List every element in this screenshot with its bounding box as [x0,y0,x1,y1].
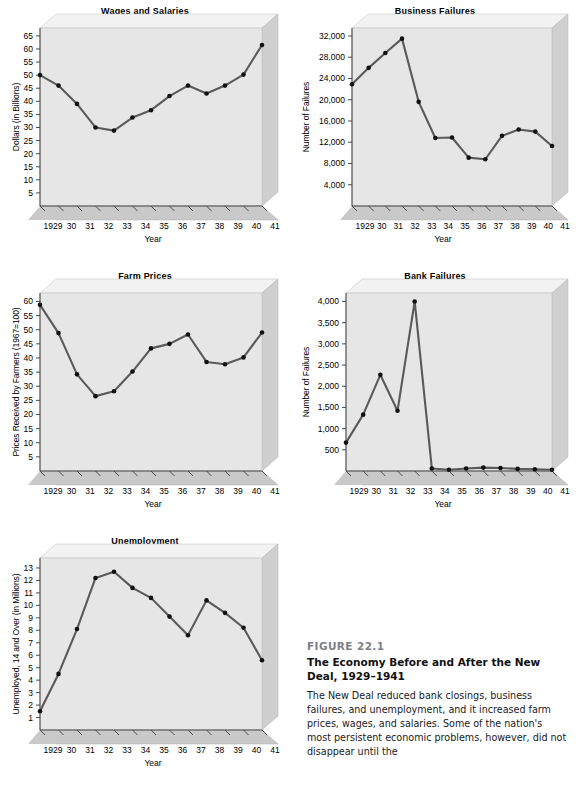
data-point-marker [533,467,538,472]
x-tick-label: 30 [67,486,76,496]
data-point-marker [383,51,388,56]
x-tick-label: 33 [423,486,432,496]
x-tick-label: 1929 [350,486,369,496]
data-point-marker [241,625,246,630]
x-tick-label: 41 [560,486,569,496]
x-tick-label: 36 [178,486,187,496]
y-tick-label: 20,000 [290,95,345,105]
x-tick-label: 30 [67,745,76,755]
plot-right-face [552,14,568,206]
data-point-marker [186,633,191,638]
data-point-marker [75,102,80,107]
chart-panel-wages-and-salaries: Wages and Salaries 510152025303540455055… [0,6,290,264]
x-tick-label: 41 [270,486,279,496]
data-point-marker [167,342,172,347]
data-point-marker [93,125,98,130]
figure-title: The Economy Before and After the New Dea… [307,656,569,684]
data-point-marker [260,330,265,335]
x-tick-label: 39 [233,745,242,755]
data-point-marker [361,412,366,417]
data-point-marker [223,611,228,616]
y-axis-label: Dollars (in Billions) [11,28,21,206]
data-point-marker [186,332,191,337]
x-tick-label: 32 [410,221,419,231]
data-point-marker [481,465,486,470]
plot-area-wrapper: 5101520253035404550556065192930313233343… [0,18,290,264]
x-tick-label: 31 [85,486,94,496]
plot-top-face [346,279,568,293]
x-tick-label: 1929 [44,221,63,231]
data-point-marker [112,389,117,394]
plot-right-face [262,544,278,730]
plot-base-face [40,471,278,485]
x-axis-label: Year [8,499,298,509]
data-point-marker [38,73,43,78]
figure-body-text: The New Deal reduced bank closings, busi… [307,689,569,759]
x-tick-label: 35 [159,745,168,755]
data-point-marker [378,372,383,377]
data-point-marker [223,83,228,88]
x-tick-label: 33 [122,221,131,231]
plot-right-face [552,279,568,471]
x-tick-label: 30 [67,221,76,231]
data-point-marker [433,136,438,141]
data-point-marker [516,127,521,132]
x-tick-label: 34 [141,221,150,231]
plot-top-face [40,279,278,293]
chart-panel-farm-prices: Farm Prices 5101520253035404550556019293… [0,271,290,529]
y-tick-label: 32,000 [290,31,345,41]
x-tick-label: 31 [85,221,94,231]
y-tick-label: 3,500 [290,318,339,328]
plot-base-face [346,471,568,485]
data-point-marker [430,466,435,471]
y-tick-label: 2,500 [290,360,339,370]
x-tick-label: 35 [457,486,466,496]
data-point-marker [412,299,417,304]
data-point-marker [483,157,488,162]
x-tick-label: 31 [394,221,403,231]
data-point-marker [416,100,421,105]
chart-panel-bank-failures: Bank Failures 5001,0001,5002,0002,5003,0… [290,271,580,529]
y-tick-label: 4,000 [290,296,339,306]
x-tick-label: 38 [509,486,518,496]
plot-top-face [40,544,278,558]
plot-background [40,28,262,206]
data-point-marker [38,709,43,714]
y-tick-label: 2,000 [290,381,339,391]
data-point-marker [112,128,117,133]
data-point-marker [130,369,135,374]
x-tick-label: 36 [477,221,486,231]
data-point-marker [93,394,98,399]
x-tick-label: 1929 [44,745,63,755]
data-point-marker [450,135,455,140]
x-tick-label: 31 [85,745,94,755]
y-tick-label: 3,000 [290,339,339,349]
x-tick-label: 40 [543,486,552,496]
y-tick-label: 8,000 [290,158,345,168]
y-tick-label: 1,000 [290,424,339,434]
x-tick-label: 35 [159,486,168,496]
x-tick-label: 40 [252,745,261,755]
x-tick-label: 36 [178,221,187,231]
x-tick-label: 34 [444,221,453,231]
plot-area-wrapper: 5001,0001,5002,0002,5003,0003,5004,00019… [290,283,580,529]
x-tick-label: 34 [141,486,150,496]
data-point-marker [241,355,246,360]
plot-background [40,558,262,730]
y-tick-label: 16,000 [290,116,345,126]
y-tick-label: 500 [290,445,339,455]
x-tick-label: 37 [196,486,205,496]
data-point-marker [204,360,209,365]
data-point-marker [241,72,246,77]
x-tick-label: 30 [371,486,380,496]
data-point-marker [204,598,209,603]
plot-area-wrapper: 1234567891011121319293031323334353637383… [0,548,290,788]
x-axis-label: Year [298,499,580,509]
data-point-marker [186,83,191,88]
x-tick-label: 38 [215,221,224,231]
data-point-marker [498,466,503,471]
data-point-marker [149,346,154,351]
data-point-marker [75,627,80,632]
data-point-marker [515,467,520,472]
figure-caption: FIGURE 22.1 The Economy Before and After… [307,640,569,759]
